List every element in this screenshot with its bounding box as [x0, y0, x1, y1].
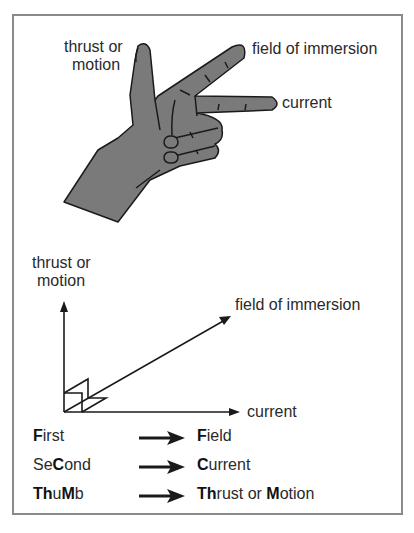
arrow-up-icon [60, 301, 68, 312]
legend-quantity: Field [197, 427, 232, 445]
current-axis-label: current [247, 403, 297, 421]
legend-finger: SeCond [33, 456, 91, 474]
first-finger-label: field of immersion [252, 40, 377, 58]
thrust-axis-label-line2: motion [32, 272, 91, 290]
arrow-right-icon [229, 408, 240, 416]
legend-quantity: Current [197, 456, 250, 474]
vector-axes [64, 307, 232, 412]
thumb-label: thrust or motion [64, 38, 123, 74]
legend-quantity: Thrust or Motion [197, 485, 314, 503]
thumb-label-line1: thrust or [64, 38, 123, 56]
second-finger-label: current [282, 94, 332, 112]
legend-finger: First [33, 427, 64, 445]
thrust-axis-label: thrust or motion [32, 254, 91, 290]
arrow-right-icon [139, 431, 185, 445]
field-axis-label: field of immersion [235, 296, 360, 314]
legend-row: SeCondCurrent [33, 456, 333, 480]
thumb-label-line2: motion [64, 56, 123, 74]
arrow-right-icon [139, 460, 185, 474]
thrust-axis-label-line1: thrust or [32, 254, 91, 272]
arrow-diagonal-icon [219, 316, 231, 325]
arrow-right-icon [139, 489, 185, 503]
legend-finger: ThuMb [33, 485, 84, 503]
legend-row: ThuMbThrust or Motion [33, 485, 333, 509]
legend-row: FirstField [33, 427, 333, 451]
